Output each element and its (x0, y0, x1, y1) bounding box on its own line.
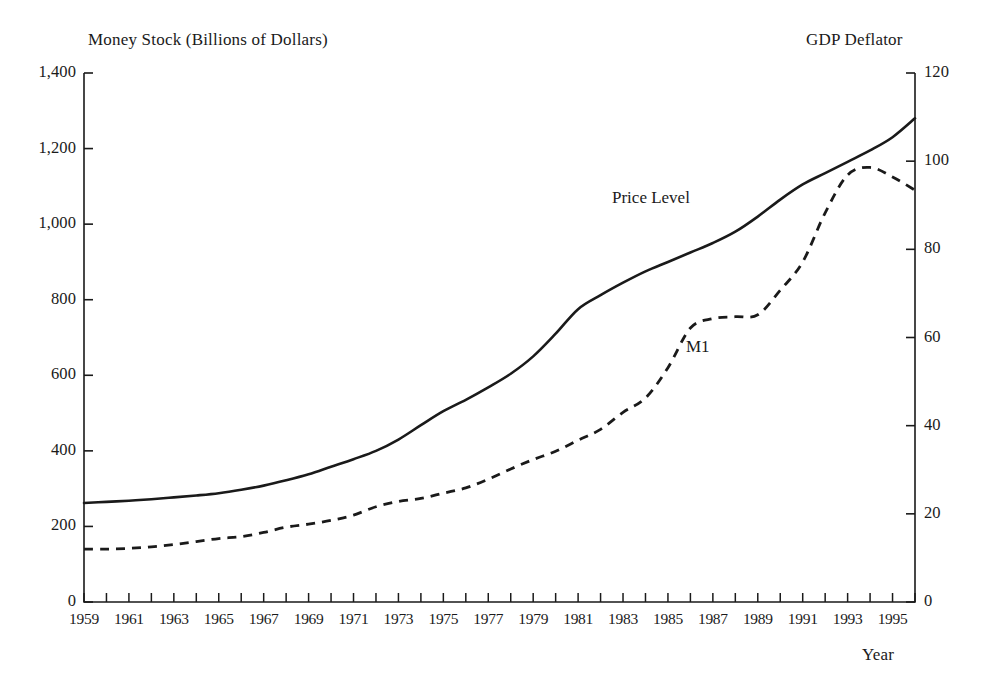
tick-label: 1987 (690, 610, 736, 628)
tick-label: 1969 (286, 610, 332, 628)
tick-label: 1963 (151, 610, 197, 628)
tick-label: 0 (2, 591, 76, 611)
price-level-series-label: Price Level (612, 188, 690, 208)
x-axis-title: Year (862, 645, 894, 665)
tick-label: 1989 (735, 610, 781, 628)
tick-label: 1981 (555, 610, 601, 628)
tick-label: 600 (2, 364, 76, 384)
tick-label: 1959 (61, 610, 107, 628)
tick-label: 400 (2, 440, 76, 460)
axis-lines (84, 73, 915, 602)
axis-ticks (84, 73, 915, 602)
tick-label: 200 (2, 515, 76, 535)
right-axis-title: GDP Deflator (806, 30, 903, 50)
tick-label: 1967 (241, 610, 287, 628)
tick-label: 60 (924, 327, 984, 347)
tick-label: 1991 (780, 610, 826, 628)
tick-label: 800 (2, 289, 76, 309)
tick-label: 20 (924, 503, 984, 523)
tick-label: 40 (924, 415, 984, 435)
tick-label: 1995 (870, 610, 916, 628)
tick-label: 1979 (510, 610, 556, 628)
tick-label: 1,000 (2, 213, 76, 233)
chart-figure: Money Stock (Billions of Dollars) GDP De… (0, 0, 986, 687)
plot-area (0, 0, 986, 687)
tick-label: 1983 (600, 610, 646, 628)
left-axis-title: Money Stock (Billions of Dollars) (88, 30, 328, 50)
price-level-line (84, 118, 915, 503)
tick-label: 1975 (420, 610, 466, 628)
tick-label: 100 (924, 150, 984, 170)
m1-series-label: M1 (686, 337, 710, 357)
tick-label: 1971 (331, 610, 377, 628)
tick-label: 1965 (196, 610, 242, 628)
tick-label: 80 (924, 238, 984, 258)
m1-line (84, 167, 915, 549)
tick-label: 1993 (825, 610, 871, 628)
tick-label: 1977 (465, 610, 511, 628)
tick-label: 1985 (645, 610, 691, 628)
tick-label: 1,200 (2, 138, 76, 158)
tick-label: 1973 (375, 610, 421, 628)
tick-label: 1961 (106, 610, 152, 628)
tick-label: 0 (924, 591, 984, 611)
tick-label: 1,400 (2, 62, 76, 82)
tick-label: 120 (924, 62, 984, 82)
